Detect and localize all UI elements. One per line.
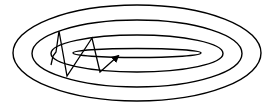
contour-ellipse-3	[51, 35, 223, 72]
contour-ellipse-4	[73, 49, 201, 58]
contour-ellipses	[13, 5, 261, 101]
optimization-path	[51, 31, 118, 76]
contour-diagram	[0, 0, 272, 109]
